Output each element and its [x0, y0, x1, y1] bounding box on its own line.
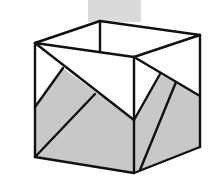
top-strip: [88, 0, 141, 22]
rim-back: [35, 21, 200, 43]
origami-box-diagram: [0, 0, 210, 186]
